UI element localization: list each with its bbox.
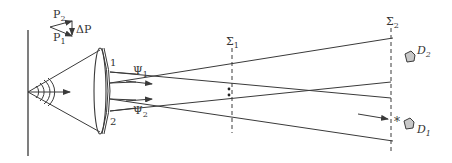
detector-d2-icon xyxy=(405,51,415,62)
psi1-label: Ψ1 xyxy=(133,64,148,79)
sigma2-label: Σ2 xyxy=(386,15,399,30)
p1-label: P1 xyxy=(53,31,66,46)
d1-label: D1 xyxy=(416,123,431,138)
delta-p-label: ΔP xyxy=(76,23,92,36)
lens xyxy=(94,48,106,134)
fringe-dot xyxy=(228,88,231,91)
star-marker: * xyxy=(394,115,400,129)
sigma1-label: Σ1 xyxy=(226,35,239,50)
d2-label: D2 xyxy=(416,44,431,59)
psi2-label: Ψ2 xyxy=(133,104,148,119)
detector-d1-icon xyxy=(404,118,414,129)
fringe-dot xyxy=(228,94,231,97)
beam-rays xyxy=(110,38,393,141)
p2-label: P2 xyxy=(53,8,66,23)
port-2-label: 2 xyxy=(110,116,116,127)
port-1-label: 1 xyxy=(110,57,116,68)
interferometer-diagram: P2 P1 ΔP 1 2 Ψ1 Ψ2 Σ1 Σ2 D2 D1 * xyxy=(0,0,452,163)
d1-pointer-arrow-icon xyxy=(358,114,388,119)
